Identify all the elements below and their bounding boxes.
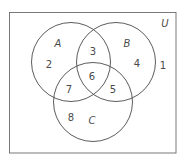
- set-b-label: B: [124, 38, 131, 49]
- venn-diagram: U A B C 1 2 3 4 5 6 7 8: [0, 0, 188, 162]
- universe-rectangle: [10, 13, 177, 154]
- region-b-only-number: 4: [134, 58, 140, 69]
- universe-label: U: [161, 18, 169, 29]
- region-a-only-number: 2: [46, 59, 52, 70]
- region-ac-number: 7: [66, 84, 72, 95]
- region-abc-number: 6: [89, 71, 95, 82]
- region-c-only-number: 8: [68, 112, 74, 123]
- set-a-label: A: [54, 38, 62, 49]
- region-outside-number: 1: [160, 60, 166, 71]
- region-bc-number: 5: [110, 84, 116, 95]
- set-c-label: C: [89, 115, 96, 126]
- region-ab-number: 3: [90, 46, 96, 57]
